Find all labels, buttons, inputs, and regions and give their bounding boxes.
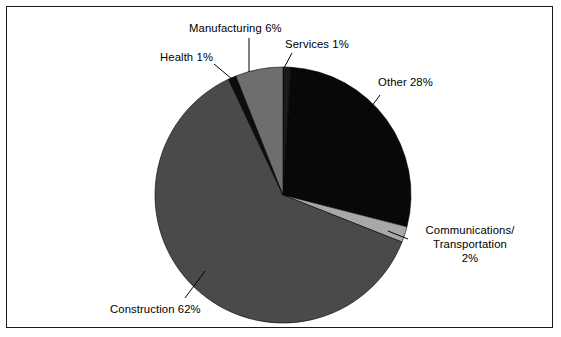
pie-label-services: Services 1% [285,38,349,51]
leader-line-services [284,53,292,68]
pie-chart-svg [0,0,561,337]
pie-label-health: Health 1% [160,51,213,64]
pie-chart-area: Manufacturing 6% Health 1% Services 1% O… [0,0,561,337]
pie-label-construction: Construction 62% [110,303,201,316]
pie-label-commtrans-line1: Communications/ [410,223,530,237]
pie-label-commtrans-line2: Transportation [410,237,530,251]
pie-label-communications-transportation: Communications/ Transportation 2% [410,223,530,265]
pie-label-other: Other 28% [378,76,433,89]
leader-line-health [214,64,232,79]
pie-label-manufacturing: Manufacturing 6% [189,22,282,35]
pie-label-commtrans-line3: 2% [410,251,530,265]
